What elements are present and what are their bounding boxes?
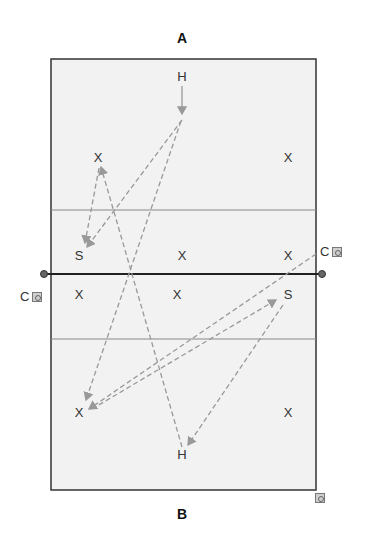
- player-b-x4: X: [278, 406, 298, 420]
- coach-icon: [332, 247, 342, 257]
- coach-icon: [315, 493, 325, 503]
- coach-icon: [32, 292, 42, 302]
- player-a-x4: X: [278, 249, 298, 263]
- player-b-h: H: [172, 448, 192, 462]
- coach-extra: [315, 493, 325, 503]
- player-b-x2: X: [167, 288, 187, 302]
- player-a-x3: X: [172, 249, 192, 263]
- player-a-h: H: [172, 70, 192, 84]
- coach-a: C: [320, 245, 342, 259]
- coach-b-label: C: [20, 290, 29, 304]
- player-a-s: S: [69, 249, 89, 263]
- player-b-s: S: [278, 288, 298, 302]
- player-b-x1: X: [69, 288, 89, 302]
- player-b-x3: X: [69, 406, 89, 420]
- player-a-x1: X: [88, 151, 108, 165]
- coach-b: C: [20, 290, 42, 304]
- player-a-x2: X: [278, 151, 298, 165]
- net-post-right: [319, 271, 326, 278]
- net-post-left: [41, 271, 48, 278]
- coach-a-label: C: [320, 245, 329, 259]
